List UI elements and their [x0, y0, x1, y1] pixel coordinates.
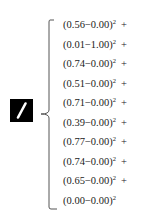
term-row: (0.39−0.00)2+ [63, 113, 127, 133]
term-row: (0.51−0.00)2+ [63, 74, 127, 94]
curly-brace-icon [38, 18, 58, 211]
term-row: (0.74−0.00)2+ [63, 54, 127, 74]
term-row: (0.65−0.00)2+ [63, 171, 127, 191]
term-row: (0.56−0.00)2+ [63, 15, 127, 35]
squared-difference-list: (0.56−0.00)2+ (0.01−1.00)2+ (0.74−0.00)2… [63, 15, 127, 210]
term-row: (0.77−0.00)2+ [63, 132, 127, 152]
term-row: (0.71−0.00)2+ [63, 93, 127, 113]
term-row: (0.74−0.00)2+ [63, 152, 127, 172]
term-row: (0.01−1.00)2+ [63, 35, 127, 55]
digit-image [10, 99, 33, 122]
handwritten-one-icon [10, 99, 33, 122]
term-row: (0.00−0.00)2 [63, 191, 127, 211]
